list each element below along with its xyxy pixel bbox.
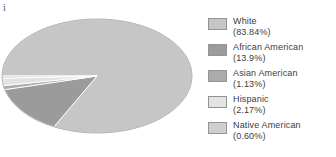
- legend-item-text: White (83.84%): [233, 16, 336, 38]
- pie-chart-figure: i White (83.84%) African American (13.9%…: [0, 0, 336, 157]
- legend-item-african-american[interactable]: African American (13.9%): [208, 42, 336, 68]
- pie-plot-area: [0, 14, 200, 157]
- legend-swatch-icon: [208, 70, 227, 82]
- legend-item-label: Native American: [233, 120, 336, 131]
- legend-item-label: White: [233, 16, 336, 27]
- legend-swatch-icon: [208, 122, 227, 134]
- legend-item-value: (2.17%): [233, 105, 336, 116]
- legend-item-label: Hispanic: [233, 94, 336, 105]
- legend-item-label: Asian American: [233, 68, 336, 79]
- legend-swatch-icon: [208, 44, 227, 56]
- legend-item-label: African American: [233, 42, 336, 53]
- legend-item-asian-american[interactable]: Asian American (1.13%): [208, 68, 336, 94]
- legend-swatch-icon: [208, 96, 227, 108]
- legend-item-text: Asian American (1.13%): [233, 68, 336, 90]
- legend: White (83.84%) African American (13.9%) …: [208, 16, 336, 146]
- legend-item-native-american[interactable]: Native American (0.60%): [208, 120, 336, 146]
- legend-item-text: Native American (0.60%): [233, 120, 336, 142]
- legend-item-value: (13.9%): [233, 53, 336, 64]
- legend-item-text: Hispanic (2.17%): [233, 94, 336, 116]
- legend-item-value: (83.84%): [233, 27, 336, 38]
- pie-svg: [0, 14, 200, 157]
- legend-item-hispanic[interactable]: Hispanic (2.17%): [208, 94, 336, 120]
- legend-item-value: (1.13%): [233, 79, 336, 90]
- scan-artifact-glyph: i: [3, 2, 8, 13]
- legend-item-text: African American (13.9%): [233, 42, 336, 64]
- legend-swatch-icon: [208, 18, 227, 30]
- legend-item-value: (0.60%): [233, 131, 336, 142]
- legend-item-white[interactable]: White (83.84%): [208, 16, 336, 42]
